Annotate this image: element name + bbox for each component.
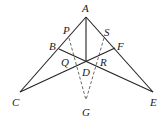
label-B: B bbox=[49, 40, 56, 52]
label-D: D bbox=[81, 66, 90, 78]
segment-AC bbox=[20, 17, 86, 92]
segment-AE bbox=[86, 17, 153, 92]
label-A: A bbox=[81, 2, 89, 14]
label-G: G bbox=[82, 106, 90, 118]
segment-FC bbox=[20, 48, 115, 92]
label-R: R bbox=[99, 56, 107, 68]
geometry-diagram: A P S B F Q R D C E G bbox=[0, 0, 166, 127]
label-S: S bbox=[104, 26, 110, 38]
label-P: P bbox=[62, 24, 70, 36]
label-Q: Q bbox=[61, 56, 69, 68]
label-E: E bbox=[149, 96, 157, 108]
label-F: F bbox=[116, 40, 124, 52]
label-C: C bbox=[12, 96, 20, 108]
